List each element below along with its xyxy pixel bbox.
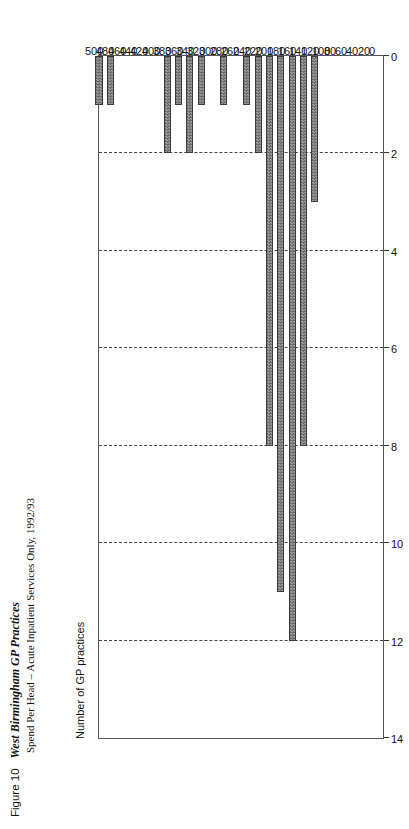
- count-tick-label-12: 12: [391, 636, 403, 648]
- count-tick-label-8: 8: [391, 441, 397, 453]
- count-tick-10: [384, 542, 389, 543]
- count-tick-12: [384, 640, 389, 641]
- plot-inner: [99, 56, 383, 738]
- figure-page: Figure 10West Birmingham GP Practices Sp…: [0, 0, 409, 829]
- count-tick-8: [384, 445, 389, 446]
- figure-label: Figure 10: [9, 768, 21, 817]
- count-tick-2: [384, 152, 389, 153]
- count-tick-0: [384, 55, 389, 56]
- count-tick-4: [384, 250, 389, 251]
- spend-tick-label-60: 60: [335, 45, 347, 57]
- bar-spend-220: [255, 56, 262, 153]
- count-tick-label-0: 0: [391, 51, 397, 63]
- count-tick-6: [384, 347, 389, 348]
- bar-spend-180: [277, 56, 284, 592]
- count-axis: 14121086420: [384, 55, 409, 739]
- gridline-count-12: [99, 640, 383, 641]
- plot-area: [98, 55, 384, 739]
- bar-spend-160: [289, 56, 296, 641]
- bar-spend-480: [107, 56, 114, 105]
- spend-axis: 0204060801001201401601802002202402602803…: [98, 0, 384, 55]
- bar-spend-320: [198, 56, 205, 105]
- count-tick-label-6: 6: [391, 343, 397, 355]
- spend-tick-label-40: 40: [346, 45, 358, 57]
- gridline-count-8: [99, 445, 383, 446]
- spend-tick-label-500: 500: [85, 45, 103, 57]
- bar-spend-360: [175, 56, 182, 105]
- bar-spend-280: [220, 56, 227, 105]
- count-tick-14: [384, 737, 389, 738]
- count-tick-label-10: 10: [391, 538, 403, 550]
- bar-spend-120: [311, 56, 318, 202]
- spend-tick-label-20: 20: [358, 45, 370, 57]
- figure-name: West Birmingham GP Practices: [8, 602, 22, 758]
- count-axis-caption: Number of GP practices: [74, 622, 86, 739]
- gridline-count-6: [99, 347, 383, 348]
- bar-spend-500: [95, 56, 102, 105]
- count-tick-label-4: 4: [391, 246, 397, 258]
- bar-spend-200: [266, 56, 273, 446]
- gridline-count-2: [99, 152, 383, 153]
- count-tick-label-2: 2: [391, 148, 397, 160]
- bar-spend-340: [186, 56, 193, 153]
- gridline-count-4: [99, 250, 383, 251]
- gridline-count-10: [99, 542, 383, 543]
- bar-spend-240: [243, 56, 250, 105]
- figure-subtitle: Spend Per Head – Acute Inpatient Service…: [23, 277, 37, 753]
- figure-title-block: Figure 10West Birmingham GP Practices Sp…: [8, 277, 37, 817]
- title-line-1: Figure 10West Birmingham GP Practices: [8, 277, 22, 817]
- bar-spend-380: [164, 56, 171, 153]
- bar-spend-140: [300, 56, 307, 446]
- count-tick-label-14: 14: [391, 733, 403, 745]
